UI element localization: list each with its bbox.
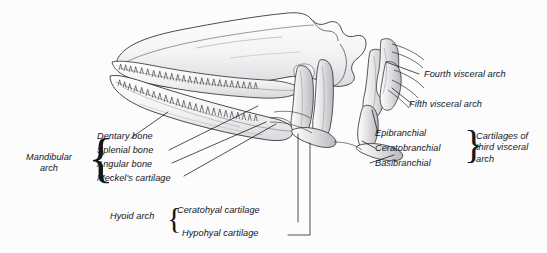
label-hypohyal-cartilage: Hypohyal cartilage <box>182 228 258 239</box>
label-hyoid-arch: Hyoid arch <box>110 211 154 222</box>
label-meckels-cartilage: Meckel's cartilage <box>97 173 171 184</box>
leader-hypohyal <box>288 143 310 235</box>
label-ceratobranchial: Ceratobranchial <box>375 143 441 154</box>
label-angular-bone: Angular bone <box>97 159 152 170</box>
label-ceratohyal-cartilage: Ceratohyal cartilage <box>177 205 260 216</box>
label-mandibular-arch: Mandibular arch <box>12 152 86 175</box>
label-epibranchial: Epibranchial <box>375 128 426 139</box>
label-fifth-visceral-arch: Fifth visceral arch <box>409 99 482 110</box>
label-fourth-visceral-arch: Fourth visceral arch <box>424 69 506 80</box>
label-dentary-bone: Dentary bone <box>97 131 153 142</box>
label-splenial-bone: Splenial bone <box>97 145 153 156</box>
anatomical-figure: Mandibular arch { Dentary bone Splenial … <box>0 0 547 253</box>
label-basibranchial: Basibranchial <box>375 158 431 169</box>
label-cartilages-third-visceral-arch: Cartilages of third visceral arch <box>476 131 528 165</box>
